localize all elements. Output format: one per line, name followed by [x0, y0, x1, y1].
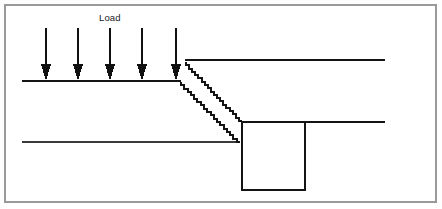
diagram-canvas — [0, 0, 442, 209]
load-label: Load — [99, 13, 121, 23]
figure-background — [0, 0, 442, 209]
load-diagram-figure: Load — [0, 0, 442, 209]
